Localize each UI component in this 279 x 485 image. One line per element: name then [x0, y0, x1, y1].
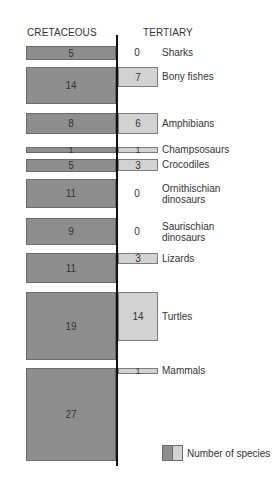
- category-label: Mammals: [162, 365, 205, 376]
- legend-swatch: [162, 445, 183, 461]
- cretaceous-value: 27: [65, 409, 76, 420]
- tertiary-bar: 6: [118, 113, 158, 134]
- tertiary-bar: 1: [118, 147, 158, 153]
- tertiary-value: 1: [135, 368, 140, 374]
- center-axis: [116, 35, 118, 466]
- cretaceous-bar: 19: [26, 292, 116, 360]
- legend-swatch-cretaceous: [163, 446, 172, 460]
- cretaceous-value: 9: [68, 226, 74, 237]
- category-label: Lizards: [162, 253, 194, 264]
- category-label: Sharks: [162, 47, 193, 58]
- cretaceous-value: 1: [68, 147, 73, 153]
- cretaceous-value: 5: [68, 160, 74, 171]
- tertiary-bar: 3: [118, 253, 158, 264]
- cretaceous-bar: 5: [26, 46, 116, 60]
- cretaceous-value: 5: [68, 48, 74, 59]
- tertiary-bar: 14: [118, 292, 158, 341]
- species-extinction-chart: CRETACEOUS TERTIARY 50Sharks147Bony fish…: [0, 0, 279, 485]
- legend-label: Number of species: [187, 448, 270, 459]
- tertiary-value: 14: [132, 311, 143, 322]
- tertiary-value: 3: [135, 253, 141, 264]
- cretaceous-bar: 27: [26, 368, 116, 461]
- cretaceous-bar: 11: [26, 179, 116, 208]
- cretaceous-value: 8: [68, 118, 74, 129]
- category-label: Ornithischian dinosaurs: [162, 183, 220, 205]
- tertiary-value: 6: [135, 118, 141, 129]
- category-label: Crocodiles: [162, 159, 209, 170]
- legend-swatch-tertiary: [172, 446, 182, 460]
- tertiary-value-zero: 0: [127, 226, 147, 237]
- category-label: Champsosaurs: [162, 144, 229, 155]
- tertiary-value: 3: [135, 160, 141, 171]
- tertiary-value: 1: [135, 147, 140, 153]
- tertiary-value: 7: [135, 72, 141, 83]
- tertiary-bar: 3: [118, 159, 158, 171]
- header-cretaceous: CRETACEOUS: [27, 27, 97, 38]
- cretaceous-value: 11: [66, 188, 76, 199]
- header-tertiary: TERTIARY: [143, 27, 193, 38]
- cretaceous-value: 19: [65, 321, 76, 332]
- cretaceous-bar: 1: [26, 147, 116, 153]
- cretaceous-bar: 5: [26, 159, 116, 172]
- tertiary-bar: 1: [118, 368, 158, 374]
- category-label: Saurischian dinosaurs: [162, 221, 214, 243]
- cretaceous-bar: 14: [26, 67, 116, 104]
- cretaceous-bar: 9: [26, 218, 116, 245]
- tertiary-bar: 7: [118, 67, 158, 87]
- category-label: Turtles: [162, 311, 192, 322]
- cretaceous-bar: 8: [26, 113, 116, 134]
- cretaceous-bar: 11: [26, 253, 116, 283]
- category-label: Bony fishes: [162, 71, 214, 82]
- tertiary-value-zero: 0: [127, 47, 147, 58]
- category-label: Amphibians: [162, 118, 214, 129]
- tertiary-value-zero: 0: [127, 188, 147, 199]
- cretaceous-value: 11: [66, 263, 76, 274]
- cretaceous-value: 14: [65, 80, 76, 91]
